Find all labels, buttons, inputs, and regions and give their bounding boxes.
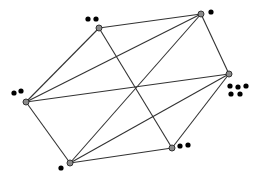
token-dot-icon [235, 84, 240, 89]
edge-F-C [70, 74, 229, 163]
edge-C-E [172, 74, 229, 148]
edge-D-A [26, 28, 99, 102]
token-dot-icon [58, 165, 63, 170]
edge-A-B [99, 14, 201, 28]
edge-F-B [70, 14, 201, 163]
vertex-D [23, 99, 29, 105]
token-dot-icon [185, 142, 190, 147]
token-dot-icon [11, 90, 16, 95]
token-dot-icon [243, 83, 248, 88]
vertex-B [198, 11, 204, 17]
graph-canvas [0, 0, 263, 179]
token-dot-icon [208, 9, 213, 14]
token-dot-icon [227, 83, 232, 88]
token-dot-icon [228, 91, 233, 96]
edge-D-B [26, 14, 201, 102]
token-dot-icon [18, 88, 23, 93]
vertex-A [96, 25, 102, 31]
token-dot-icon [85, 16, 90, 21]
token-dot-icon [237, 91, 242, 96]
token-layer [11, 9, 248, 170]
edge-E-F [70, 148, 172, 163]
vertex-F [67, 160, 73, 166]
token-dot-icon [177, 143, 182, 148]
token-dot-icon [93, 16, 98, 21]
vertex-C [226, 71, 232, 77]
edge-F-D [26, 102, 70, 163]
graph-diagram [0, 0, 263, 179]
vertex-E [169, 145, 175, 151]
edge-B-C [201, 14, 229, 74]
edge-layer [26, 14, 229, 163]
